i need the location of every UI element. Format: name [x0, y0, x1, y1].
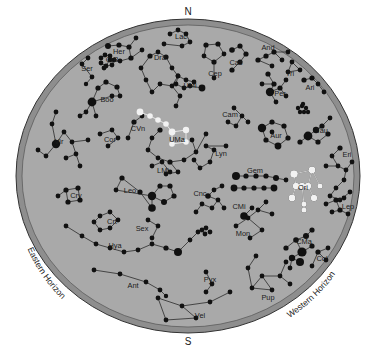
star-dot [254, 254, 259, 259]
star-dot [326, 246, 331, 251]
star-dot [288, 282, 293, 287]
star-dot [264, 200, 269, 205]
star-dot [269, 119, 274, 124]
star-dot [204, 132, 209, 137]
star-dot [246, 120, 251, 125]
star-dot [348, 190, 353, 195]
star-dot [301, 102, 305, 106]
star-dot [301, 201, 306, 206]
star-dot [317, 183, 322, 188]
star-dot [194, 210, 199, 215]
constellation-label-cmi: CMi [232, 202, 245, 211]
star-dot [324, 164, 329, 169]
star-dot [84, 82, 88, 86]
star-dot [134, 36, 139, 41]
star-dot [270, 212, 275, 217]
star-dot [306, 110, 310, 114]
star-dot [194, 150, 199, 155]
constellation-label-crv: Crv [70, 191, 82, 200]
star-dot [222, 52, 227, 57]
star-dot [104, 64, 109, 69]
star-dot [137, 189, 142, 194]
star-dot [224, 144, 229, 149]
star-dot [98, 228, 103, 233]
constellation-label-boo: Boo [100, 95, 113, 104]
star-dot [176, 74, 181, 79]
star-dot [98, 214, 103, 219]
star-dot [110, 128, 115, 133]
star-dot [290, 60, 295, 65]
star-dot [198, 166, 203, 171]
star-dot [310, 264, 315, 269]
star-dot [298, 110, 302, 114]
constellation-label-tau: Tau [316, 126, 328, 135]
star-dot [220, 184, 225, 189]
star-dot [136, 248, 141, 253]
star-dot [271, 185, 278, 192]
constellation-label-leo: Leo [124, 186, 136, 195]
star-dot [324, 202, 329, 207]
star-dot [56, 194, 61, 199]
constellation-label-pup: Pup [261, 293, 274, 302]
constellation-label-gem: Gem [247, 166, 263, 175]
star-dot [261, 185, 266, 190]
star-dot [334, 186, 339, 191]
star-dot [309, 75, 314, 80]
cardinal-south: S [185, 336, 192, 347]
star-dot [119, 175, 124, 180]
star-dot [241, 185, 246, 190]
star-dot [36, 148, 41, 153]
constellation-label-cvn: CVn [131, 124, 145, 133]
star-dot [74, 152, 79, 157]
constellation-label-ari: Ari [305, 83, 314, 92]
star-dot [64, 156, 69, 161]
star-dot [302, 110, 306, 114]
star-dot [263, 53, 268, 58]
star-dot [204, 226, 209, 231]
star-dot [108, 210, 113, 215]
star-dot [108, 226, 113, 231]
star-dot [94, 114, 99, 119]
star-dot [148, 204, 156, 212]
star-dot [202, 54, 207, 59]
star-dot [315, 139, 320, 144]
star-dot [171, 193, 176, 198]
star-dot [114, 188, 119, 193]
star-dot [342, 196, 347, 201]
star-dot [328, 116, 333, 121]
star-dot [275, 143, 282, 150]
star-dot [122, 250, 127, 255]
constellation-label-eri: Eri [342, 150, 351, 159]
cardinal-north: N [184, 6, 191, 17]
star-dot [150, 236, 155, 241]
star-dot [229, 47, 235, 53]
star-dot [199, 85, 206, 92]
star-dot [210, 206, 215, 211]
star-dot [65, 199, 70, 204]
star-dot [296, 258, 304, 266]
star-dot [250, 206, 255, 211]
constellation-label-crb: CrB [106, 55, 119, 64]
star-dot [330, 154, 335, 159]
star-dot [99, 61, 104, 66]
star-dot [139, 66, 144, 71]
star-dot [203, 232, 208, 237]
star-dot [263, 137, 268, 142]
star-dot [140, 48, 145, 53]
star-dot [237, 43, 242, 48]
constellation-label-hya: Hya [108, 241, 122, 250]
constellation-label-dra: Dra [154, 53, 167, 62]
star-dot [328, 194, 333, 199]
star-dot [246, 266, 251, 271]
star-dot [301, 77, 306, 82]
star-dot [99, 56, 104, 61]
star-dot [176, 170, 181, 175]
star-dot [285, 135, 290, 140]
star-dot [243, 51, 248, 56]
star-dot [167, 159, 172, 164]
constellation-label-mon: Mon [236, 229, 250, 238]
star-dot [208, 230, 213, 235]
star-dot [170, 66, 175, 71]
star-dot [234, 224, 239, 229]
constellation-label-lac: Lac [175, 32, 187, 41]
